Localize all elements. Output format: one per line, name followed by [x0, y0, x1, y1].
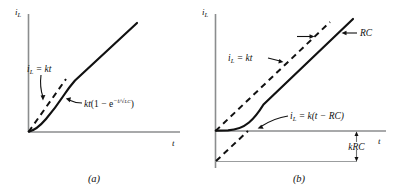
panel-a: iL t iL = kt kt(1 − e−t/√LC) (a) [15, 7, 180, 185]
panel-b-krc-label: kRC [348, 142, 365, 152]
figure-svg: iL t iL = kt kt(1 − e−t/√LC) (a) [0, 0, 398, 194]
panel-b-rc-label: RC [359, 28, 373, 38]
panel-a-response-curve [29, 23, 137, 132]
panel-b-asymptote-leader [261, 116, 288, 127]
panel-b-caption: (b) [293, 173, 306, 185]
panel-b-tangent-line-label: iL = kt [228, 53, 253, 64]
panel-a-tangent-line [29, 79, 67, 132]
panel-a-y-axis-label: iL [15, 7, 22, 18]
panel-a-tangent-line-label: iL = kt [27, 64, 52, 75]
panel-b-krc-lower-arrow-head [355, 157, 359, 162]
panel-a-curve-leader [69, 100, 82, 103]
panel-a-x-axis-label: t [172, 138, 175, 148]
panel-a-curve-leader-arrow [66, 97, 71, 102]
panel-b-shifted-ramp-extension [216, 131, 248, 161]
panel-b-rc-gap-arrow-head [310, 34, 315, 38]
panel-b-rc-leader-arrow [342, 31, 347, 35]
panel-b-asymptote-label: iL = k(t − RC) [290, 111, 344, 122]
panel-a-tangent-leader-arrow [41, 95, 46, 101]
panel-a-response-curve-label: kt(1 − e−t/√LC) [84, 97, 134, 110]
panel-a-tangent-leader [41, 75, 43, 97]
panel-b-krc-upper-arrow-head [355, 132, 359, 137]
panel-b-tangent-leader-arrow [278, 59, 283, 64]
panel-b: iL t iL = kt RC iL = k(t − RC) kRC (b) [202, 7, 386, 185]
panel-b-x-axis-label: t [378, 136, 381, 146]
panel-b-tangent-leader [268, 58, 280, 61]
panel-b-y-axis-label: iL [202, 7, 209, 18]
figure-root: iL t iL = kt kt(1 − e−t/√LC) (a) [0, 0, 398, 194]
panel-a-caption: (a) [88, 173, 101, 185]
